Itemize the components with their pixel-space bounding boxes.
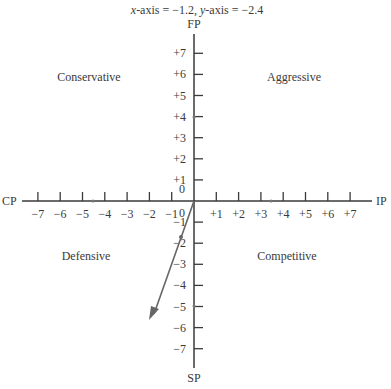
x-tick-label: −7 bbox=[32, 207, 45, 221]
space-matrix-chart: x-axis = −1.2, y-axis = −2.4 FP SP CP IP… bbox=[0, 0, 391, 389]
y-tick-label: +7 bbox=[173, 46, 186, 60]
x-tick-label: +3 bbox=[255, 207, 268, 221]
axis-label-sp: SP bbox=[187, 371, 201, 385]
x-tick-label: −5 bbox=[76, 207, 89, 221]
chart-title: x-axis = −1.2, y-axis = −2.4 bbox=[130, 3, 263, 17]
y-tick-label: −6 bbox=[173, 321, 186, 335]
origin-label-upper: 0 bbox=[179, 182, 185, 196]
x-tick-label: +7 bbox=[344, 207, 357, 221]
axis-marker bbox=[193, 116, 196, 119]
axis-label-cp: CP bbox=[2, 194, 17, 208]
x-tick-label: −2 bbox=[143, 207, 156, 221]
y-tick-label: −3 bbox=[173, 257, 186, 271]
y-tick-label: −4 bbox=[173, 278, 186, 292]
quadrant-conservative: Conservative bbox=[57, 70, 120, 84]
axis-label-fp: FP bbox=[187, 17, 201, 31]
x-tick-label: +5 bbox=[299, 207, 312, 221]
x-tick-label: +4 bbox=[277, 207, 290, 221]
x-tick-label: −3 bbox=[121, 207, 134, 221]
arrowhead-icon bbox=[149, 306, 159, 320]
quadrant-defensive: Defensive bbox=[62, 249, 111, 263]
axis-marker bbox=[92, 200, 95, 203]
x-tick-label: −4 bbox=[98, 207, 111, 221]
quadrant-competitive: Competitive bbox=[257, 249, 316, 263]
axis-marker bbox=[193, 305, 196, 308]
y-tick-label: +6 bbox=[173, 67, 186, 81]
x-tick-label: +1 bbox=[210, 207, 223, 221]
y-tick-label: +5 bbox=[173, 89, 186, 103]
quadrant-aggressive: Aggressive bbox=[267, 70, 321, 84]
x-tick-label: +6 bbox=[321, 207, 334, 221]
x-tick-label: −6 bbox=[54, 207, 67, 221]
vector-point bbox=[179, 235, 183, 239]
y-tick-label: +3 bbox=[173, 131, 186, 145]
axis-marker bbox=[270, 200, 273, 203]
y-tick-label: +2 bbox=[173, 152, 186, 166]
origin-label-lower: 0 bbox=[179, 206, 185, 220]
axis-label-ip: IP bbox=[376, 194, 387, 208]
y-tick-label: −5 bbox=[173, 300, 186, 314]
y-tick-label: −7 bbox=[173, 342, 186, 356]
y-tick-label: +4 bbox=[173, 110, 186, 124]
x-tick-label: +2 bbox=[232, 207, 245, 221]
